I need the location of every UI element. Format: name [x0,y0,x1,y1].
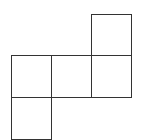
cube-face-middle-right [91,55,132,98]
cube-face-top-right [91,14,132,56]
cube-face-middle-center [51,55,92,98]
cube-net-diagram [0,0,141,140]
cube-face-bottom-left [11,97,52,140]
cube-face-middle-left [11,55,52,98]
